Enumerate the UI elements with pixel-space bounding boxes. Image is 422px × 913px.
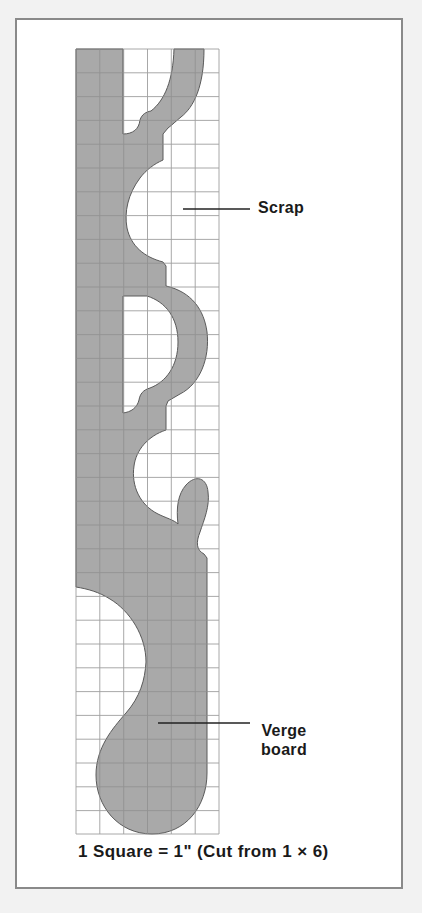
verge-board-label-line1: Verge [258,721,310,740]
verge-board-label-line2: board [258,740,310,759]
verge-board-pattern [0,0,422,913]
scrap-label: Scrap [258,198,304,217]
verge-board-label: Verge board [258,721,310,759]
scale-caption: 1 Square = 1" (Cut from 1 × 6) [78,842,329,862]
